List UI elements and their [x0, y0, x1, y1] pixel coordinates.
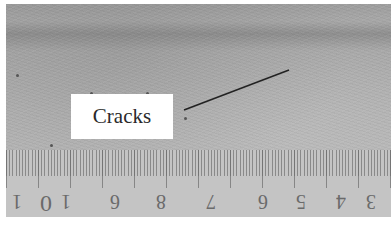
- figure: 1 0 1 6 8 7 6 5 4 3 Cracks: [0, 0, 391, 225]
- leader-line: [0, 0, 391, 225]
- cracks-label: Cracks: [71, 94, 173, 139]
